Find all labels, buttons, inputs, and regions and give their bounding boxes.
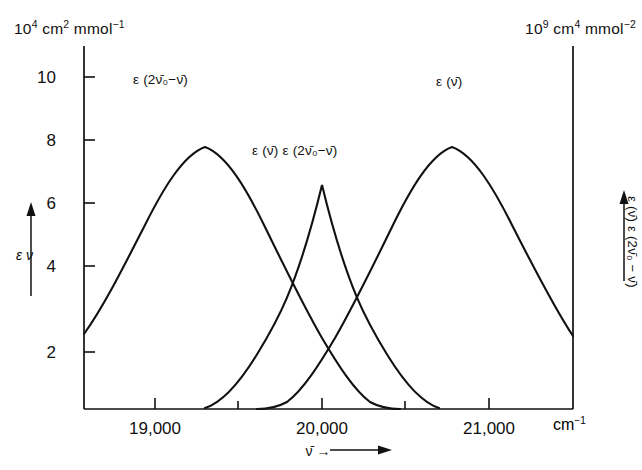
curve-epsilon-nu xyxy=(257,147,573,409)
x-axis-arrow-icon xyxy=(330,446,392,455)
curve-epsilon-two-nu0-minus-nu xyxy=(84,147,400,409)
y-tick-marks xyxy=(84,77,95,352)
figure-root: 104 cm2 mmol−1 109 cm4 mmol−2 10 8 6 4 2… xyxy=(0,0,642,470)
left-axis-arrow-icon xyxy=(27,202,36,296)
right-axis-arrow-icon xyxy=(620,190,629,281)
curve-product xyxy=(205,185,439,408)
plot-canvas xyxy=(0,0,642,470)
